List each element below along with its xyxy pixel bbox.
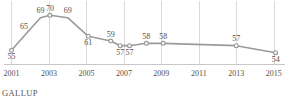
- data-point-label: 54: [272, 55, 280, 64]
- data-point-label: 57: [116, 48, 124, 57]
- data-point-label: 58: [142, 32, 150, 41]
- data-point-label: 59: [107, 30, 115, 39]
- data-point-label: 57: [126, 48, 134, 57]
- point-labels-group: 55656970696159575758585754: [7, 4, 279, 64]
- data-point-marker[interactable]: [109, 39, 113, 43]
- data-point-label: 61: [84, 38, 92, 47]
- data-point-label: 58: [159, 32, 167, 41]
- data-point-label: 69: [64, 6, 72, 15]
- data-point-label: 57: [232, 34, 240, 43]
- gallup-line-chart: 55656970696159575758585754 2001200320052…: [0, 0, 291, 104]
- x-tick-label: 2009: [153, 69, 169, 78]
- x-tick-label: 2005: [78, 69, 94, 78]
- x-axis-group: 20012003200520072009201120132015: [3, 65, 285, 79]
- x-tick-label: 2011: [191, 69, 207, 78]
- x-tick-label: 2001: [3, 69, 19, 78]
- data-point-marker[interactable]: [234, 44, 238, 48]
- x-tick-label: 2003: [41, 69, 57, 78]
- data-point-marker[interactable]: [144, 41, 148, 45]
- data-point-marker[interactable]: [161, 41, 165, 45]
- data-point-label: 65: [20, 22, 28, 31]
- x-tick-label: 2007: [116, 69, 132, 78]
- x-tick-label: 2013: [228, 69, 244, 78]
- data-point-label: 69: [37, 6, 45, 15]
- chart-plot-area: 55656970696159575758585754 2001200320052…: [0, 0, 291, 104]
- gallup-attribution: GALLUP: [2, 88, 38, 98]
- x-tick-label: 2015: [266, 69, 282, 78]
- data-point-marker[interactable]: [48, 13, 52, 17]
- data-point-label: 55: [7, 52, 15, 61]
- data-point-label: 70: [46, 4, 54, 13]
